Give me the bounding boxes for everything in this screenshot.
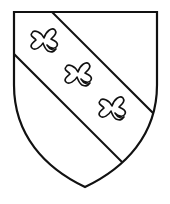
quatrefoil-2 bbox=[65, 63, 91, 86]
shield-figure bbox=[0, 0, 170, 204]
quatrefoil-1 bbox=[31, 29, 57, 52]
quatrefoil-3 bbox=[99, 97, 125, 120]
bend-lower-line bbox=[0, 30, 150, 190]
